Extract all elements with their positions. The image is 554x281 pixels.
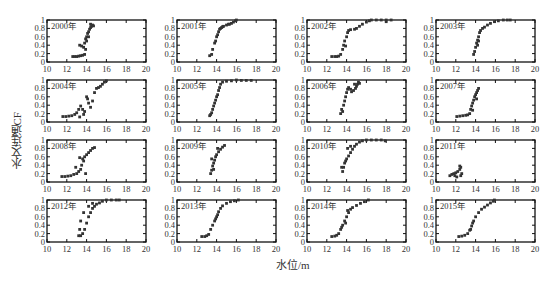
subplot-title: 2015年 <box>440 201 466 211</box>
figure: 水文连通CF 水位/m 10121416182000.20.40.60.8120… <box>0 0 554 281</box>
y-tick-label: 1 <box>430 195 434 205</box>
x-tick-label: 18 <box>511 244 520 254</box>
x-tick-label: 14 <box>471 244 480 254</box>
x-tick-label: 12 <box>452 244 461 254</box>
subplot-2015: 10121416182000.20.40.60.812015年 <box>0 0 554 281</box>
x-tick-label: 16 <box>491 244 500 254</box>
x-tick-label: 20 <box>531 244 540 254</box>
